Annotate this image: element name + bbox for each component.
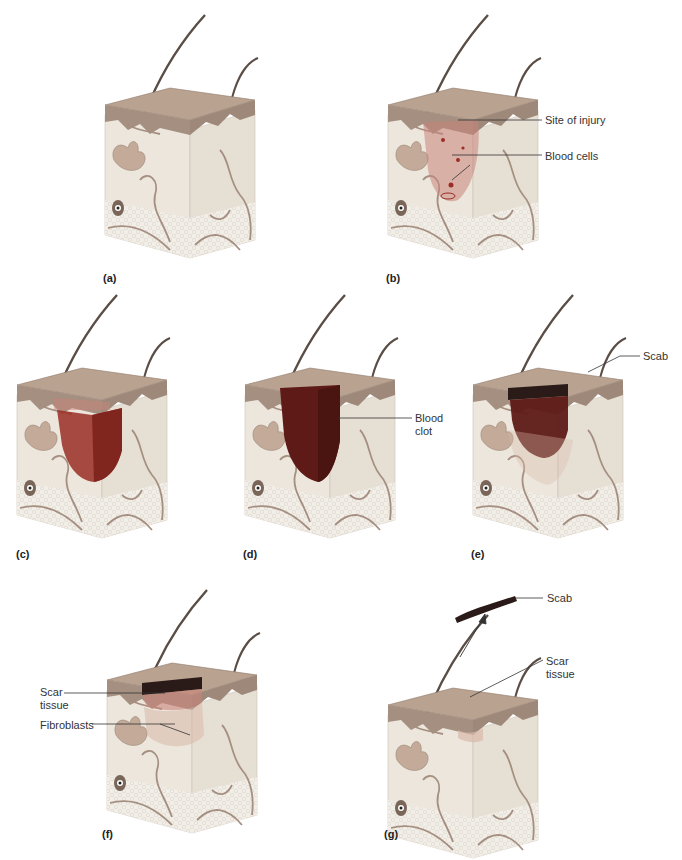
panel-label-e: (e) <box>471 548 484 560</box>
panel-label-g: (g) <box>384 828 398 840</box>
callout-blood-cells: Blood cells <box>545 150 598 163</box>
panel-label-b: (b) <box>386 272 400 284</box>
skin-block-illustration <box>240 290 400 540</box>
callout-fibroblasts: Fibroblasts <box>40 719 94 732</box>
panel-a <box>100 10 300 280</box>
hair-strand-short <box>515 58 541 98</box>
callout-scab-g: Scab <box>547 592 572 605</box>
panel-c <box>12 290 212 550</box>
callout-scab-e: Scab <box>643 350 668 363</box>
skin-block-illustration <box>468 290 628 540</box>
callout-blood-clot: Blood clot <box>415 412 443 438</box>
callout-scar-tissue-f: Scar tissue <box>40 686 69 712</box>
wound-overlay <box>142 677 204 746</box>
callout-scar-tissue-g: Scar tissue <box>546 655 575 681</box>
hair-strand-short <box>234 633 260 673</box>
panel-label-d: (d) <box>243 548 257 560</box>
hair-strand-short <box>232 58 258 98</box>
callout-site-of-injury: Site of injury <box>545 114 606 127</box>
skin-block-illustration <box>383 610 543 860</box>
hair-strand-short <box>372 338 398 378</box>
skin-block-illustration <box>12 290 172 540</box>
panel-f <box>102 585 302 845</box>
panel-label-c: (c) <box>16 548 29 560</box>
panel-label-f: (f) <box>102 828 113 840</box>
skin-block-illustration <box>102 585 262 835</box>
skin-block-illustration <box>100 10 260 260</box>
hair-strand-short <box>600 338 626 378</box>
panel-e <box>468 290 668 550</box>
hair-strand-short <box>515 658 541 698</box>
panel-label-a: (a) <box>103 272 116 284</box>
panel-b <box>383 10 583 280</box>
skin-block-illustration <box>383 10 543 260</box>
hair-strand-short <box>144 338 170 378</box>
panel-d <box>240 290 440 550</box>
